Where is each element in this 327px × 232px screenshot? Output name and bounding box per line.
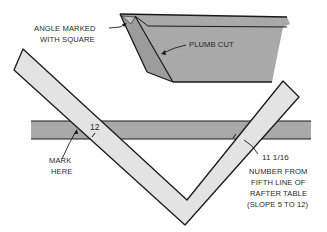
angle-label-line2: WITH SQUARE [40, 35, 95, 44]
mark-label-line2: HERE [51, 167, 73, 176]
twelve-label: 12 [90, 122, 100, 132]
note-line2: FIFTH LINE OF [251, 178, 306, 187]
note-line1: NUMBER FROM [249, 167, 307, 176]
mark-label-line1: MARK [49, 156, 71, 165]
measurement-label: 11 1/16 [262, 153, 289, 162]
note-line3: RAFTER TABLE [250, 189, 307, 198]
angle-label-line1: ANGLE MARKED [34, 24, 96, 33]
note-line4: (SLOPE 5 TO 12) [247, 200, 309, 209]
framing-square-diagram: ANGLE MARKED WITH SQUARE PLUMB CUT 12 MA… [0, 0, 327, 232]
plumb-cut-label: PLUMB CUT [189, 40, 234, 49]
